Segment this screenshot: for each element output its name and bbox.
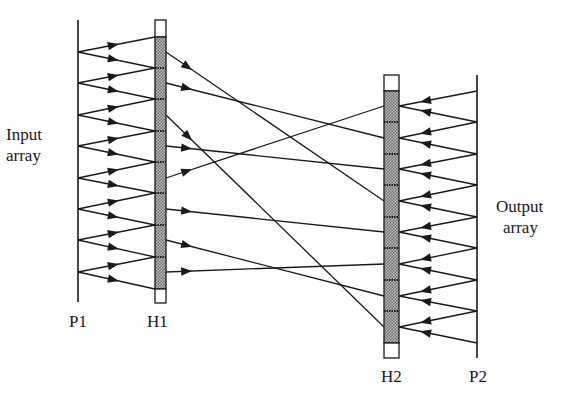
arrowhead-icon <box>420 253 432 261</box>
arrowhead-icon <box>180 169 192 177</box>
interconnect-ray <box>166 146 384 169</box>
arrowhead-icon <box>107 275 119 283</box>
arrowhead-icon <box>107 180 119 188</box>
output-array-label-line2: array <box>503 218 538 237</box>
h1-bottom-cap <box>155 289 166 303</box>
arrowhead-icon <box>420 298 432 306</box>
arrowhead-icon <box>107 243 119 251</box>
arrowhead-icon <box>107 148 119 156</box>
ray <box>399 327 477 343</box>
output-array-label-line1: Output <box>496 197 544 216</box>
interconnect-ray <box>166 52 384 201</box>
arrowhead-icon <box>107 54 119 62</box>
arrowhead-icon <box>181 206 192 214</box>
ray <box>399 122 477 138</box>
arrowhead-icon <box>180 240 192 248</box>
ray <box>399 296 477 311</box>
arrowhead-icon <box>420 316 432 324</box>
ray <box>399 201 477 217</box>
arrowhead-icon <box>181 267 192 275</box>
h2-label: H2 <box>381 367 402 386</box>
arrowhead-icon <box>107 85 119 93</box>
h1-label: H1 <box>147 312 168 331</box>
arrowhead-icon <box>107 230 119 238</box>
ray <box>399 138 477 154</box>
input-array-label-line2: array <box>6 146 41 165</box>
h1-top-cap <box>155 20 166 37</box>
arrowhead-icon <box>420 108 432 116</box>
arrowhead-icon <box>107 168 119 176</box>
input-array-label-line1: Input <box>6 125 42 144</box>
arrowhead-icon <box>107 211 119 219</box>
ray <box>399 232 477 248</box>
arrowhead-icon <box>181 60 192 70</box>
interconnect-ray <box>166 209 384 232</box>
ray <box>399 311 477 327</box>
arrowhead-icon <box>420 171 432 179</box>
arrowhead-icon <box>107 73 119 81</box>
arrowhead-icon <box>420 222 432 230</box>
p2-label: P2 <box>469 367 487 386</box>
interconnect-ray <box>166 264 384 272</box>
h2-top-cap <box>384 75 399 91</box>
arrowhead-icon <box>181 143 192 151</box>
interconnect-diagram: Input array Output array P1 H1 H2 P2 <box>0 0 568 398</box>
ray <box>399 248 477 264</box>
arrowhead-icon <box>420 266 432 274</box>
arrowhead-icon <box>107 136 119 144</box>
h2-bottom-cap <box>384 343 399 358</box>
ray <box>399 217 477 232</box>
arrowhead-icon <box>420 96 432 104</box>
arrowhead-icon <box>420 190 432 198</box>
ray <box>399 169 477 185</box>
arrowhead-icon <box>420 127 432 135</box>
ray <box>399 264 477 280</box>
arrowhead-icon <box>107 199 119 207</box>
arrowhead-icon <box>420 159 432 167</box>
interconnect-ray <box>166 83 384 138</box>
ray <box>399 185 477 201</box>
p1-label: P1 <box>69 312 87 331</box>
arrowhead-icon <box>420 285 432 293</box>
ray <box>399 91 477 106</box>
interconnect-ray <box>166 106 384 178</box>
arrowhead-icon <box>420 234 432 242</box>
arrowhead-icon <box>420 203 432 211</box>
ray <box>399 154 477 169</box>
arrowhead-icon <box>420 329 432 337</box>
arrowhead-icon <box>107 42 119 50</box>
output-fanin-rays <box>399 91 477 343</box>
arrowhead-icon <box>107 117 119 125</box>
arrowhead-icon <box>107 262 119 270</box>
arrowhead-icon <box>107 105 119 113</box>
crossover-interconnect-rays <box>166 52 384 327</box>
ray <box>399 280 477 296</box>
ray <box>399 106 477 122</box>
arrowhead-icon <box>420 140 432 148</box>
arrowhead-icon <box>180 83 192 91</box>
